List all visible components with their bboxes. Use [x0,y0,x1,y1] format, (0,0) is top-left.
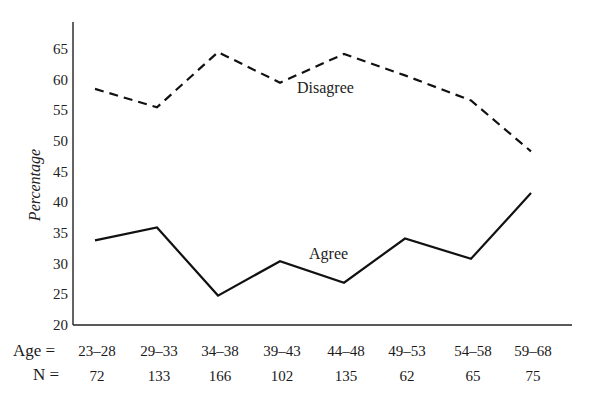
n-value-label: 102 [271,368,294,384]
y-tick-label: 50 [53,133,68,149]
n-value-label: 75 [526,368,541,384]
x-category-label: 29–33 [140,343,178,359]
y-tick-label: 40 [53,194,68,210]
x-category-label: 34–38 [201,343,239,359]
y-tick-labels: 20253035404550556065 [53,41,68,333]
series-label-disagree: Disagree [297,79,354,97]
series-label-agree: Agree [309,245,348,263]
n-value-labels: 72133166102135626575 [90,368,541,384]
n-value-label: 65 [466,368,481,384]
x-category-label: 23–28 [78,343,116,359]
x-category-label: 54–58 [454,343,492,359]
y-tick-label: 55 [53,102,68,118]
n-value-label: 72 [90,368,105,384]
y-tick-label: 20 [53,317,68,333]
y-tick-label: 65 [53,41,68,57]
age-row-label: Age = [13,341,55,360]
x-category-label: 39–43 [263,343,301,359]
x-category-label: 49–53 [388,343,426,359]
x-category-label: 59–68 [514,343,552,359]
x-category-label: 44–48 [327,343,365,359]
y-tick-label: 45 [53,164,68,180]
y-axis-title: Percentage [26,149,44,222]
axes [73,22,572,325]
n-row-label: N = [33,365,59,384]
n-value-label: 166 [209,368,232,384]
y-tick-label: 35 [53,225,68,241]
y-tick-label: 30 [53,256,68,272]
n-value-label: 62 [400,368,415,384]
n-value-label: 135 [335,368,358,384]
line-chart: 20253035404550556065 Percentage Disagree… [0,0,590,404]
y-tick-label: 25 [53,286,68,302]
x-category-labels: 23–2829–3334–3839–4344–4849–5354–5859–68 [78,343,552,359]
series-line-disagree [95,52,531,151]
y-tick-label: 60 [53,72,68,88]
n-value-label: 133 [148,368,171,384]
